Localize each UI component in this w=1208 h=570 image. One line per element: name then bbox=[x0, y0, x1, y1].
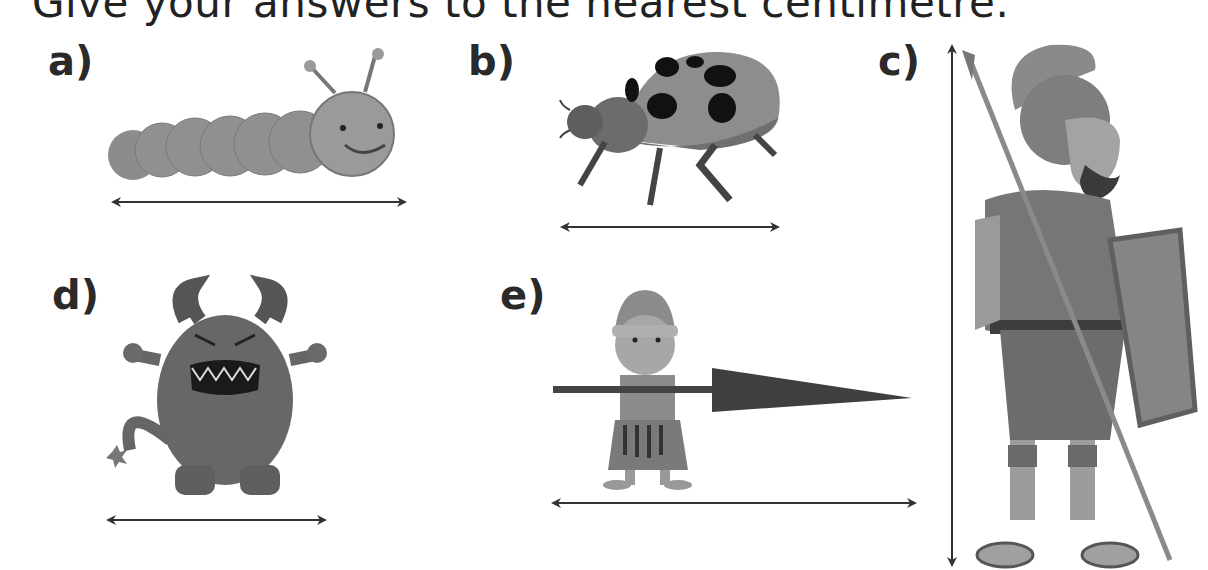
ladybird-illustration bbox=[560, 52, 780, 227]
worksheet-illustrations bbox=[0, 0, 1208, 570]
boy-with-spear-illustration bbox=[553, 290, 915, 503]
monster-illustration bbox=[106, 285, 327, 520]
caterpillar-illustration bbox=[108, 48, 405, 202]
roman-soldier-illustration bbox=[952, 45, 1195, 567]
